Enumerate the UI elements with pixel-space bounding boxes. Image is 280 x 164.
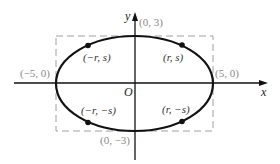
point-label-r-neg-s: (r, −s) <box>162 103 190 116</box>
intercept-top-label: (0, 3) <box>139 16 163 29</box>
point-label-neg-r-neg-s: (−r, −s) <box>81 104 116 117</box>
y-axis-label: y <box>124 9 131 23</box>
point-label-r-s: (r, s) <box>163 51 184 64</box>
y-axis-arrow-icon <box>132 12 138 21</box>
point-r-neg-s <box>179 119 185 125</box>
point-neg-r-neg-s <box>85 120 91 126</box>
intercept-left-label: (−5, 0) <box>20 67 50 80</box>
intercept-right-label: (5, 0) <box>215 67 239 80</box>
ellipse-diagram: y x O (0, 3) (0, −3) (−5, 0) (5, 0) (−r,… <box>0 0 280 164</box>
origin-label: O <box>124 85 133 99</box>
intercept-bottom-label: (0, −3) <box>100 134 130 147</box>
x-axis-label: x <box>260 85 267 99</box>
point-neg-r-s <box>85 43 91 49</box>
point-r-s <box>179 42 185 48</box>
point-label-neg-r-s: (−r, s) <box>83 51 111 64</box>
